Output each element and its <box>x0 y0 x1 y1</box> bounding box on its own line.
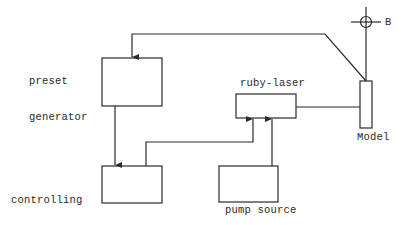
axis-marker-label: B <box>385 16 392 28</box>
ruby-laser-box <box>236 94 296 118</box>
preset-generator-label-line1: preset <box>29 75 88 87</box>
controlling-system-label: controlling system <box>11 170 83 225</box>
pump-source-label: pump source <box>225 204 297 216</box>
preset-generator-label-line2: generator <box>29 111 88 123</box>
preset-generator-label: preset generator <box>29 51 88 135</box>
model-label: Model <box>357 131 390 143</box>
model-box <box>360 81 372 128</box>
controlling-system-box <box>102 166 162 203</box>
ruby-laser-label: ruby-laser <box>240 77 305 89</box>
pump-source-box <box>219 166 278 202</box>
preset-generator-box <box>102 58 162 106</box>
controlling-system-label-line1: controlling <box>11 194 83 206</box>
edge-model-to-preset <box>132 34 366 81</box>
edge-controlling-to-ruby <box>146 119 253 166</box>
